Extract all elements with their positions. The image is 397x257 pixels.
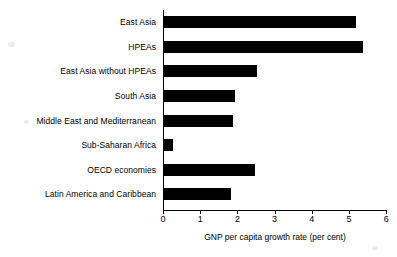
x-axis-ticks: 0 1 2 3 4 5 6 <box>163 211 387 225</box>
x-tick-label: 1 <box>198 214 203 225</box>
category-label: South Asia <box>115 92 156 101</box>
plot-area: East Asia HPEAs East Asia without HPEAs … <box>163 10 386 209</box>
bar-chart: East Asia HPEAs East Asia without HPEAs … <box>0 0 397 257</box>
category-label: East Asia <box>120 18 156 27</box>
bar-row: OECD economies <box>163 158 386 183</box>
scan-artifact <box>372 246 378 250</box>
bar <box>164 16 356 28</box>
category-label: HPEAs <box>128 43 156 52</box>
bar-row: Latin America and Caribbean <box>163 182 386 207</box>
bar <box>164 164 255 176</box>
category-label: Latin America and Caribbean <box>45 190 156 199</box>
bar <box>164 115 233 127</box>
bar <box>164 188 231 200</box>
bar <box>164 41 363 53</box>
x-tick-label: 5 <box>346 214 351 225</box>
bar <box>164 90 235 102</box>
scan-artifact <box>8 42 15 47</box>
x-tick-label: 2 <box>235 214 240 225</box>
x-axis-title: GNP per capita growth rate (per cent) <box>163 232 387 243</box>
bar-row: Middle East and Mediterranean <box>163 108 386 133</box>
category-label: Sub-Saharan Africa <box>81 141 156 150</box>
x-tick-label: 0 <box>160 214 165 225</box>
x-tick-label: 4 <box>309 214 314 225</box>
x-tick-label: 3 <box>272 214 277 225</box>
bar-row: East Asia without HPEAs <box>163 59 386 84</box>
category-label: Middle East and Mediterranean <box>36 116 156 125</box>
category-label: OECD economies <box>87 166 156 175</box>
bar <box>164 139 173 151</box>
bar-row: South Asia <box>163 84 386 109</box>
bar-row: East Asia <box>163 10 386 35</box>
category-label: East Asia without HPEAs <box>60 67 156 76</box>
x-tick-label: 6 <box>384 214 389 225</box>
bar-row: HPEAs <box>163 35 386 60</box>
bar-row: Sub-Saharan Africa <box>163 133 386 158</box>
bar <box>164 65 257 77</box>
scan-artifact <box>24 120 29 124</box>
